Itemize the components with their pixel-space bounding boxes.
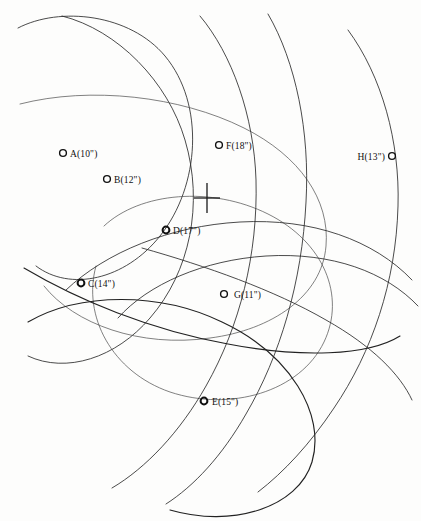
point-c[interactable]: C(14") [78,279,115,290]
point-marker-b-circle-icon[interactable] [104,176,111,183]
point-label-b: B(12") [114,175,141,186]
arc-circle-9 [24,268,400,353]
arc-circle-3 [20,95,326,340]
point-marker-f-circle-icon[interactable] [216,142,223,149]
point-label-h: H(13") [358,152,385,163]
construction-drawing: A(10")B(12")C(14")D(17")E(15")F(18")G(11… [0,0,421,521]
arc-circle-5 [28,300,315,517]
arc-circle-1 [18,16,193,280]
arc-circle-4 [93,196,333,399]
point-e[interactable]: E(15") [201,397,239,408]
point-g[interactable]: G(11") [221,290,262,301]
point-d[interactable]: D(17") [163,226,201,237]
point-marker-g-circle-icon[interactable] [221,291,228,298]
center-crosshair-mark [194,183,220,213]
arc-circle-6 [112,16,256,488]
point-label-f: F(18") [226,141,252,152]
point-label-a: A(10") [70,149,97,160]
point-label-e: E(15") [212,397,238,408]
point-label-g: G(11") [234,290,261,301]
point-b[interactable]: B(12") [104,175,141,186]
point-marker-c-circle-icon[interactable] [78,280,85,287]
point-marker-e-circle-icon[interactable] [201,398,208,405]
point-h[interactable]: H(13") [358,152,396,163]
point-label-c: C(14") [88,279,115,290]
arc-circle-7 [166,14,307,504]
point-marker-layer: A(10")B(12")C(14")D(17")E(15")F(18")G(11… [60,141,396,408]
point-marker-h-circle-icon[interactable] [389,153,396,160]
arc-layer [18,14,418,517]
arc-circle-12 [118,255,418,318]
diagram-canvas: A(10")B(12")C(14")D(17")E(15")F(18")G(11… [0,0,421,521]
point-label-d: D(17") [173,226,200,237]
arc-circle-8 [258,30,398,492]
point-f[interactable]: F(18") [216,141,252,152]
point-a[interactable]: A(10") [60,149,98,160]
arc-circle-2 [28,16,193,363]
point-marker-a-circle-icon[interactable] [60,150,67,157]
arc-circle-10 [142,248,412,400]
